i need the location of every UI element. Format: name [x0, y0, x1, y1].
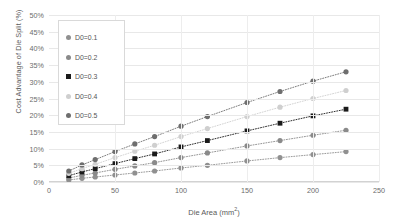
gridline-horizontal — [49, 165, 379, 166]
data-point — [277, 105, 282, 110]
data-point — [152, 143, 157, 148]
data-point — [343, 69, 348, 74]
data-point — [343, 149, 348, 154]
x-axis-tick-label: 100 — [166, 186, 196, 195]
x-axis-tick-label: 250 — [364, 186, 394, 195]
data-point — [343, 88, 348, 93]
data-point — [205, 126, 210, 131]
y-axis-tick-label: 30% — [18, 77, 44, 86]
y-axis-tick-label: 45% — [18, 27, 44, 36]
gridline-vertical — [313, 15, 314, 182]
y-axis-tick-label: 25% — [18, 94, 44, 103]
gridline-horizontal — [49, 149, 379, 150]
legend-item[interactable]: D0=0.4 — [66, 87, 124, 107]
legend-marker-circle-icon — [66, 55, 71, 60]
data-point — [152, 134, 157, 139]
legend-item[interactable]: D0=0.3 — [66, 67, 124, 87]
data-point — [205, 150, 210, 155]
x-axis-tick-label: 150 — [232, 186, 262, 195]
gridline-horizontal — [49, 15, 379, 16]
data-point — [132, 156, 137, 161]
data-point — [277, 138, 282, 143]
y-axis-tick-label: 20% — [18, 111, 44, 120]
data-point — [66, 168, 71, 173]
gridline-vertical — [181, 15, 182, 182]
y-axis-tick-label: 50% — [18, 11, 44, 20]
data-point — [132, 141, 137, 146]
legend-marker-square-icon — [66, 74, 71, 79]
legend-item[interactable]: D0=0.5 — [66, 106, 124, 126]
legend-label: D0=0.2 — [75, 54, 97, 61]
data-point — [93, 166, 98, 171]
legend-marker-circle-icon — [66, 94, 71, 99]
gridline-horizontal — [49, 182, 379, 183]
x-axis-tick-label: 200 — [298, 186, 328, 195]
y-axis-tick-label: 15% — [18, 127, 44, 136]
legend-marker-circle-icon — [66, 113, 71, 118]
legend-item[interactable]: D0=0.1 — [66, 28, 124, 48]
legend-label: D0=0.5 — [75, 112, 97, 119]
y-axis-tick-label: 5% — [18, 161, 44, 170]
y-axis-tick-label: 40% — [18, 44, 44, 53]
y-axis-tick-label: 10% — [18, 144, 44, 153]
x-axis-tick-label: 50 — [100, 186, 130, 195]
legend-item[interactable]: D0=0.2 — [66, 48, 124, 68]
data-point — [152, 168, 157, 173]
legend-label: D0=0.3 — [75, 73, 97, 80]
y-axis-tick-label: 35% — [18, 61, 44, 70]
legend-label: D0=0.1 — [75, 34, 97, 41]
legend: D0=0.1D0=0.2D0=0.3D0=0.4D0=0.5 — [58, 20, 125, 125]
gridline-vertical — [247, 15, 248, 182]
data-point — [344, 107, 349, 112]
gridline-horizontal — [49, 132, 379, 133]
legend-marker-circle-icon — [66, 35, 71, 40]
data-point — [93, 157, 98, 162]
data-point — [277, 155, 282, 160]
x-axis-title: Die Area (mm2) — [49, 206, 379, 217]
data-point — [278, 121, 283, 126]
data-point — [205, 138, 210, 143]
data-point — [277, 89, 282, 94]
legend-label: D0=0.4 — [75, 93, 97, 100]
cost-advantage-chart: Cost Advantage of Die Split (%) 0%5%10%1… — [0, 0, 396, 224]
gridline-vertical — [379, 15, 380, 182]
data-point — [132, 170, 137, 175]
x-axis-tick-label: 0 — [34, 186, 64, 195]
data-point — [152, 152, 157, 157]
data-point — [93, 170, 98, 175]
